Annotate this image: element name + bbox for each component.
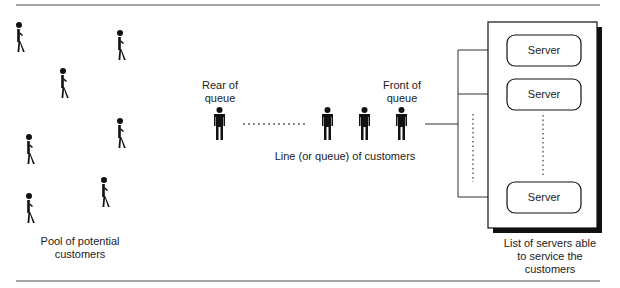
- front-of-queue-label: Front of queue: [377, 79, 427, 105]
- server-label: Server: [507, 191, 581, 204]
- standing-customer-icon: [396, 107, 407, 140]
- walker-icon: [101, 177, 110, 207]
- walker-icon: [26, 134, 35, 164]
- server-label: Server: [507, 88, 581, 101]
- queue-caption: Line (or queue) of customers: [235, 150, 455, 163]
- walker-icon: [16, 22, 25, 52]
- walker-icon: [26, 193, 35, 223]
- walker-icon: [117, 30, 126, 60]
- pool-customers: [16, 22, 126, 223]
- queue-customers: [214, 107, 407, 140]
- standing-customer-icon: [322, 107, 333, 140]
- rear-of-queue-label: Rear of queue: [195, 79, 245, 105]
- standing-customer-icon: [359, 107, 370, 140]
- walker-icon: [117, 118, 126, 148]
- standing-customer-icon: [214, 107, 225, 140]
- walker-icon: [60, 68, 69, 98]
- server-label: Server: [507, 44, 581, 57]
- pool-caption: Pool of potential customers: [20, 235, 140, 261]
- servers-caption: List of servers able to service the cust…: [480, 237, 620, 276]
